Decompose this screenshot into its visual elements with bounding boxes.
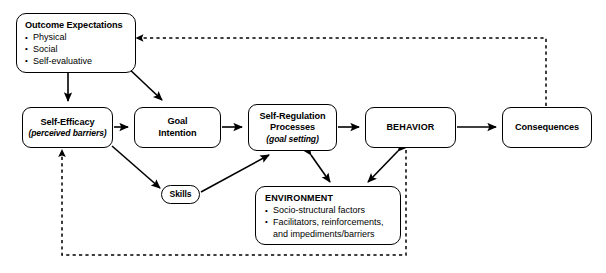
node-skills[interactable]: Skills bbox=[161, 185, 200, 204]
node-goal-intention[interactable]: Goal Intention bbox=[134, 107, 221, 148]
edge-consequences-to-outcome-arrowhead bbox=[136, 34, 144, 42]
node-self-regulation-subtitle: (goal setting) bbox=[266, 134, 319, 145]
node-outcome-expectations-title: Outcome Expectations bbox=[25, 20, 135, 31]
node-skills-title: Skills bbox=[170, 189, 192, 200]
node-outcome-expectations[interactable]: Outcome Expectations Physical Social Sel… bbox=[16, 13, 136, 73]
bullet-facilitators-reinforcements: Facilitators, reinforcements, bbox=[265, 217, 400, 229]
node-self-efficacy-title: Self-Efficacy bbox=[41, 117, 95, 128]
bullet-physical: Physical bbox=[25, 32, 135, 44]
node-self-regulation-title-line2: Processes bbox=[270, 122, 315, 133]
node-goal-intention-title-line2: Intention bbox=[159, 128, 197, 139]
bullet-self-evaluative: Self-evaluative bbox=[25, 56, 135, 68]
edge-consequences-to-outcome bbox=[142, 38, 546, 106]
edge-behavior-environment bbox=[368, 151, 398, 182]
node-self-regulation-processes[interactable]: Self-Regulation Processes (goal setting) bbox=[248, 104, 337, 151]
edge-self-regulation-environment bbox=[311, 155, 330, 182]
node-behavior[interactable]: BEHAVIOR bbox=[365, 107, 456, 148]
node-self-efficacy[interactable]: Self-Efficacy (perceived barriers) bbox=[22, 107, 113, 148]
node-environment[interactable]: ENVIRONMENT Socio-structural factors Fac… bbox=[255, 186, 401, 245]
bullet-socio-structural-factors: Socio-structural factors bbox=[265, 205, 400, 217]
node-consequences[interactable]: Consequences bbox=[502, 107, 592, 148]
node-behavior-title: BEHAVIOR bbox=[386, 122, 434, 133]
diagram-canvas: Outcome Expectations Physical Social Sel… bbox=[0, 0, 606, 273]
bullet-social: Social bbox=[25, 44, 135, 56]
edge-self-efficacy-to-skills bbox=[112, 146, 160, 188]
node-outcome-expectations-bullets: Physical Social Self-evaluative bbox=[25, 32, 135, 67]
node-self-efficacy-subtitle: (perceived barriers) bbox=[28, 128, 106, 139]
node-environment-title: ENVIRONMENT bbox=[265, 193, 400, 204]
edge-skills-to-self-regulation bbox=[201, 155, 269, 192]
node-consequences-title: Consequences bbox=[515, 122, 579, 133]
node-self-regulation-title-line1: Self-Regulation bbox=[260, 111, 326, 122]
bullet-impediments-barriers: and impediments/barriers bbox=[265, 229, 400, 241]
edge-behavior-to-self-efficacy-arrowhead bbox=[58, 149, 66, 157]
node-goal-intention-title-line1: Goal bbox=[167, 116, 187, 127]
node-environment-bullets: Socio-structural factors Facilitators, r… bbox=[265, 205, 400, 240]
